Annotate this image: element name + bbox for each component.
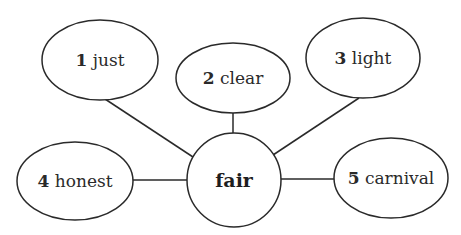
connector-1-center [105,99,193,157]
center-label: fair [215,169,254,191]
node-2-word: clear [220,68,264,88]
node-1: 1 just [42,20,158,100]
node-5-label: 5 carnival [348,168,435,188]
node-1-word: just [91,50,125,70]
node-3: 3 light [306,18,420,98]
word-web-diagram: 1 just 2 clear 3 light 4 honest 5 carniv… [0,0,461,235]
center-node: fair [187,133,281,227]
node-5: 5 carnival [334,138,448,218]
node-3-number: 3 [335,48,347,68]
node-4-label: 4 honest [38,171,113,191]
node-3-word: light [352,48,392,68]
node-2-label: 2 clear [203,68,264,88]
node-1-label: 1 just [75,50,124,70]
connector-3-center [273,98,359,155]
node-4-word: honest [55,171,113,191]
node-5-word: carnival [365,168,434,188]
node-3-label: 3 light [335,48,392,68]
node-2-number: 2 [203,68,215,88]
node-5-number: 5 [348,168,360,188]
node-1-number: 1 [75,50,87,70]
node-2: 2 clear [176,43,290,113]
node-4: 4 honest [17,142,133,220]
node-4-number: 4 [38,171,50,191]
